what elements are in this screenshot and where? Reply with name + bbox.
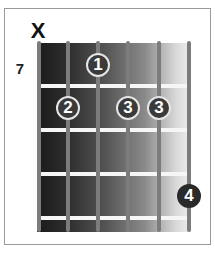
start-fret-label: 7: [10, 60, 30, 77]
finger-dot-3a: 3: [116, 96, 140, 120]
string-5: [157, 41, 161, 232]
finger-dot-3b: 3: [147, 96, 171, 120]
fret-line-2: [37, 128, 191, 132]
finger-dot-4: 4: [177, 184, 201, 208]
fret-line-4: [37, 216, 191, 220]
string-1: [37, 41, 41, 232]
string-4: [126, 41, 130, 232]
fret-line-3: [37, 172, 191, 176]
muted-string-marker: X: [27, 20, 49, 42]
finger-dot-2: 2: [56, 96, 80, 120]
fret-line-1: [37, 84, 191, 88]
fretboard: 1 2 3 3 4: [37, 43, 191, 232]
finger-dot-1: 1: [86, 53, 110, 77]
string-2: [66, 41, 70, 232]
